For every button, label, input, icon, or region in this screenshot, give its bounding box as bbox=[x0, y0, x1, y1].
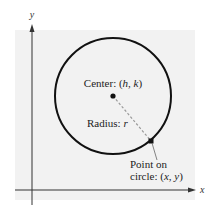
point-on-circle bbox=[149, 139, 154, 144]
center-point bbox=[110, 93, 115, 98]
point-label-line1: Point on bbox=[130, 158, 167, 170]
x-axis-label: x bbox=[199, 184, 205, 195]
y-axis-arrow-icon bbox=[30, 24, 35, 32]
diagram-canvas: y x Center: (h, k) Radius: r Point on ci… bbox=[0, 0, 213, 215]
point-label-line2: circle: (x, y) bbox=[130, 170, 183, 183]
radius-label: Radius: r bbox=[87, 117, 128, 129]
center-label: Center: (h, k) bbox=[84, 77, 143, 90]
y-axis-label: y bbox=[29, 9, 35, 20]
circle-diagram: y x Center: (h, k) Radius: r Point on ci… bbox=[0, 0, 213, 215]
